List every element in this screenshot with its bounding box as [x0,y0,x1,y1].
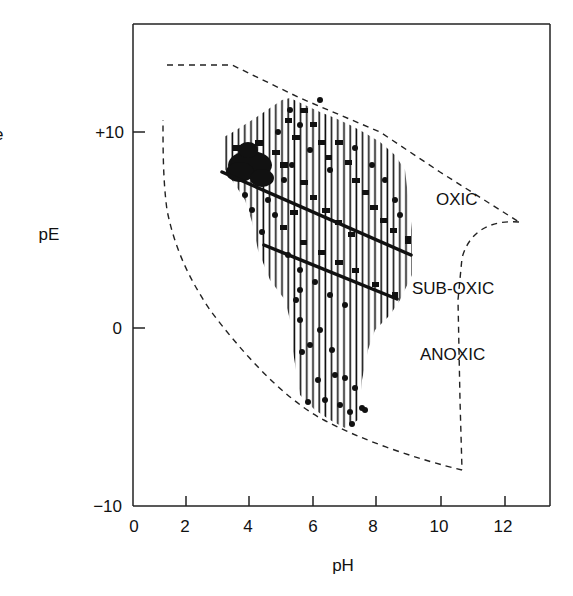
y-tick-label: 0 [113,319,122,338]
x-tick-label: 10 [430,517,449,536]
y-tick-labels: +10 0 −10 [93,123,124,516]
y-tick-label: +10 [95,123,124,142]
x-tick-label: 4 [243,517,252,536]
x-axis-label: pH [332,556,354,575]
x-tick-labels: 0 2 4 6 8 10 12 [129,517,512,536]
x-tick-label: 6 [308,517,317,536]
region-label-oxic: OXIC [436,190,478,209]
x-tick-label: 8 [368,517,377,536]
ph-pe-chart: +10 0 −10 0 2 4 6 8 10 12 pE pH e [0,0,573,596]
x-tick-label: 2 [180,517,189,536]
x-tick-label: 12 [494,517,513,536]
y-tick-label: −10 [93,497,122,516]
region-label-anoxic: ANOXIC [420,345,485,364]
x-axis-ticks [186,496,505,506]
cropped-text-fragment: e [0,125,3,144]
x-tick-label: 0 [129,517,138,536]
region-label-sub-oxic: SUB-OXIC [412,279,494,298]
y-axis-label: pE [39,225,60,244]
y-axis-ticks [133,132,145,328]
